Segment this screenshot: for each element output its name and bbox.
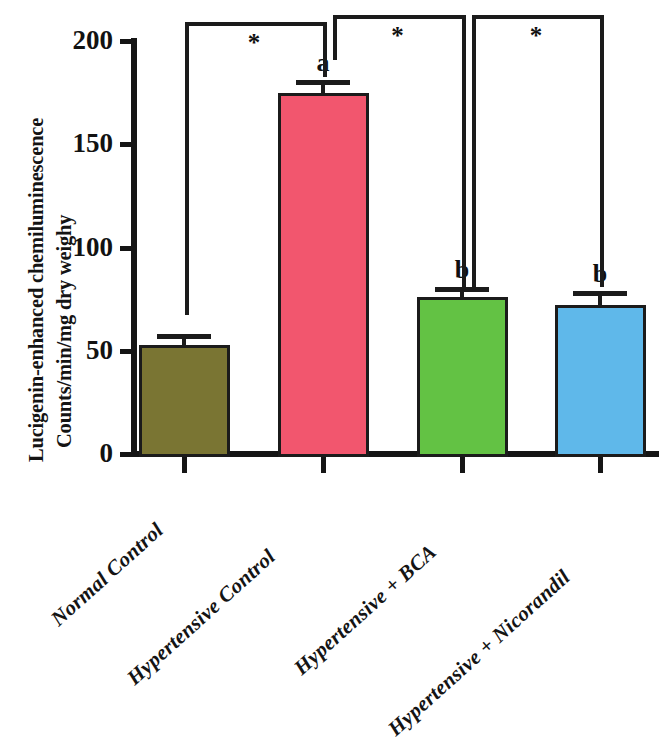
y-tick-label: 200 bbox=[73, 27, 114, 54]
significance-star-0: * bbox=[234, 30, 274, 55]
significance-bracket-leg-left-0 bbox=[185, 22, 189, 315]
significance-bracket-top-2 bbox=[472, 15, 604, 19]
significance-star-2: * bbox=[516, 23, 556, 48]
y-tick-mark bbox=[120, 452, 137, 457]
error-bar-cap-0 bbox=[157, 334, 211, 339]
x-tick-mark bbox=[598, 457, 603, 473]
significance-bracket-leg-left-2 bbox=[472, 15, 476, 292]
significance-bracket-top-1 bbox=[333, 15, 466, 19]
x-axis-label-2: Hypertensive + BCA bbox=[289, 540, 442, 681]
y-tick-mark bbox=[120, 39, 137, 44]
bar-3 bbox=[555, 305, 646, 457]
bar-0 bbox=[139, 345, 230, 457]
significance-bracket-top-0 bbox=[185, 22, 327, 26]
significance-bracket-leg-right-0 bbox=[323, 22, 327, 77]
x-tick-mark bbox=[321, 457, 326, 473]
y-tick-mark bbox=[120, 349, 137, 354]
x-tick-mark bbox=[460, 457, 465, 473]
y-tick-label: 100 bbox=[73, 234, 114, 261]
y-tick-mark bbox=[120, 142, 137, 147]
y-tick-label: 50 bbox=[86, 337, 113, 364]
bar-1 bbox=[278, 93, 369, 457]
bar-2 bbox=[417, 297, 508, 457]
significance-bracket-leg-left-1 bbox=[333, 15, 337, 60]
y-axis-title: Lucigenin-enhanced chemiluminescence Cou… bbox=[0, 0, 62, 470]
significance-star-1: * bbox=[378, 23, 418, 48]
x-tick-mark bbox=[182, 457, 187, 473]
y-tick-label: 150 bbox=[73, 130, 114, 157]
x-axis-label-3: Hypertensive + Nicorandil bbox=[383, 565, 575, 742]
x-axis-label-1: Hypertensive Control bbox=[122, 544, 281, 690]
y-tick-label: 0 bbox=[100, 440, 114, 467]
significance-bracket-leg-right-2 bbox=[600, 15, 604, 287]
y-axis-title-line-1: Lucigenin-enhanced chemiluminescence bbox=[25, 118, 48, 462]
error-bar-cap-3 bbox=[573, 291, 627, 296]
error-bar-cap-1 bbox=[296, 80, 350, 85]
bar-chart-figure: Lucigenin-enhanced chemiluminescence Cou… bbox=[0, 0, 659, 742]
x-axis-label-0: Normal Control bbox=[46, 518, 169, 632]
y-tick-mark bbox=[120, 246, 137, 251]
significance-bracket-leg-right-1 bbox=[462, 15, 466, 292]
